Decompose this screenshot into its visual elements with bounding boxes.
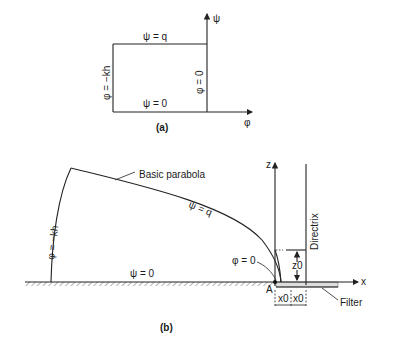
z-axis-label: z [266,159,271,170]
figure-a: ψ φ ψ = q ψ = 0 φ = −kh φ = 0 (a) [101,13,252,133]
figure-b: z0 A x0 x0 Basic parabola ψ = q ψ = 0 φ … [25,159,366,333]
bottom-edge-label: ψ = 0 [143,98,168,109]
left-equipotential-curve [51,168,71,282]
phi0-leader [257,262,276,280]
directrix-label: Directrix [309,213,320,250]
caption-a: (a) [156,122,168,133]
filter-leader [322,288,338,300]
x-axis-label: x [361,276,366,287]
bottom-streamline-label: ψ = 0 [130,268,155,279]
point-a [273,280,277,284]
point-a-label: A [266,284,273,295]
exit-equipotential-label: φ = 0 [232,255,256,266]
parabola-leader [115,172,135,180]
top-edge-label: ψ = q [143,31,167,42]
z0-label: z0 [292,260,303,271]
left-edge-label: φ = −kh [101,66,112,100]
basic-parabola-label: Basic parabola [139,169,206,180]
exit-equipotential-curve [275,250,281,282]
ground-hatch [25,282,275,286]
flow-net-diagram: ψ φ ψ = q ψ = 0 φ = −kh φ = 0 (a) z0 [0,0,396,349]
left-equipotential-label: φ = −kh [45,225,60,260]
caption-b: (b) [160,322,173,333]
right-edge-label: φ = 0 [194,70,205,94]
psi-axis-label: ψ [213,13,220,24]
phi-axis-label: φ [244,117,251,128]
filter-label: Filter [340,297,363,308]
x0-right-label: x0 [293,293,304,304]
filter [276,282,338,287]
x0-left-label: x0 [278,293,289,304]
top-streamline-label: ψ = q [187,199,213,218]
